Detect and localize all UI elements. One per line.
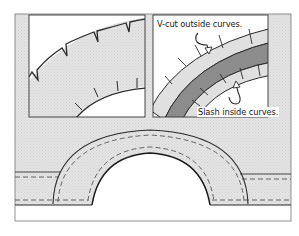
right-inset-panel xyxy=(150,15,272,120)
slash-annotation: Slash inside curves. xyxy=(197,107,279,117)
vcut-annotation: V-cut outside curves. xyxy=(157,19,242,29)
diagram-canvas: V-cut outside curves. Slash inside curve… xyxy=(0,0,299,236)
left-inset-panel xyxy=(20,15,150,125)
arch-seam-diagram xyxy=(0,0,299,236)
